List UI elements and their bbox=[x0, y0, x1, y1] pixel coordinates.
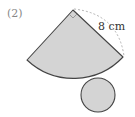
base-circle bbox=[81, 78, 115, 112]
problem-number: (2) bbox=[7, 7, 23, 20]
radius-length-label: 8 cm bbox=[98, 20, 125, 33]
